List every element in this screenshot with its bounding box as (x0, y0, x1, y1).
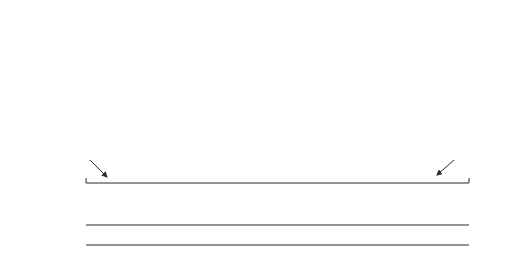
normal-curve-diagram (0, 0, 517, 273)
left-tail-arrow (90, 160, 107, 177)
right-tail-arrow (437, 160, 454, 175)
